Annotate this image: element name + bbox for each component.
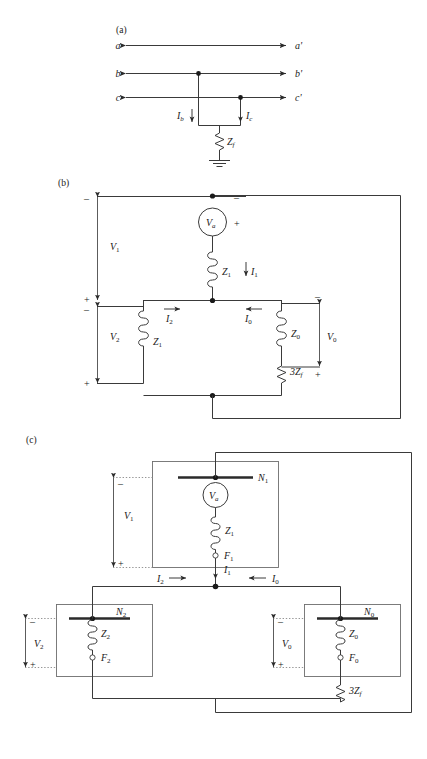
current-label-i0-b: I0 bbox=[244, 313, 252, 326]
impedance-z1-neg-coil bbox=[139, 311, 149, 346]
impedance-z1-neg-label: Z1 bbox=[153, 336, 163, 349]
voltage-label-v1-b: V1 bbox=[110, 241, 120, 254]
impedance-z0-label-c: Z0 bbox=[349, 628, 359, 641]
voltage-label-v0-b: V0 bbox=[327, 331, 337, 344]
v2-minus-c: – bbox=[29, 616, 36, 627]
v1-plus-c: + bbox=[118, 558, 124, 569]
impedance-z0-coil bbox=[277, 311, 287, 346]
current-label-i1-c: I1 bbox=[223, 564, 231, 577]
impedance-z1-label-c: Z1 bbox=[225, 525, 235, 538]
part-c-caption: (c) bbox=[26, 435, 37, 446]
impedance-3zf-label-c: 3Zf bbox=[348, 685, 363, 698]
part-b-caption: (b) bbox=[58, 178, 69, 189]
terminal-label-f2: F2 bbox=[100, 652, 111, 665]
current-label-i0-c: I0 bbox=[271, 573, 279, 586]
source-polarity-minus-b: – bbox=[233, 192, 240, 203]
outer-return-loop-c bbox=[216, 453, 412, 713]
part-b-group: (b) Va – + Z1 I1 Z1 bbox=[58, 178, 401, 419]
v0-plus-c: + bbox=[278, 659, 284, 670]
zf-label: Zf bbox=[227, 136, 236, 149]
terminal-f2 bbox=[90, 655, 95, 660]
ground-icon bbox=[209, 161, 230, 167]
part-c-group: (c) N1 Va Z1 F1 – + V1 I1 bbox=[25, 435, 412, 713]
phase-label-a-right: a' bbox=[295, 40, 303, 51]
v1-minus-b: – bbox=[83, 193, 90, 204]
v2-minus-b: – bbox=[83, 304, 90, 315]
part-a-caption: (a) bbox=[116, 25, 127, 36]
v0-minus-c: – bbox=[277, 616, 284, 627]
network-box-negative bbox=[57, 605, 153, 677]
network-box-zero bbox=[305, 605, 401, 677]
node-top-b bbox=[210, 193, 215, 198]
bus-label-n1: N1 bbox=[257, 472, 269, 485]
current-label-ib: Ib bbox=[176, 110, 184, 123]
zf-resistor-zigzag bbox=[215, 133, 224, 150]
voltage-label-v1-c: V1 bbox=[124, 510, 134, 523]
v0-minus-b: – bbox=[314, 291, 321, 302]
node-b-fault bbox=[196, 71, 201, 76]
node-junction-c bbox=[213, 584, 219, 590]
v2-plus-b: + bbox=[84, 378, 90, 389]
impedance-z0-label: Z0 bbox=[291, 328, 301, 341]
phase-label-c-right: c' bbox=[295, 92, 302, 103]
phase-label-b-right: b' bbox=[295, 68, 303, 79]
voltage-label-v2-c: V2 bbox=[34, 638, 44, 651]
current-label-ic: Ic bbox=[245, 110, 253, 123]
voltage-label-v0-c: V0 bbox=[282, 638, 292, 651]
phase-label-b-left: b bbox=[116, 68, 121, 79]
v2-plus-c: + bbox=[30, 659, 36, 670]
impedance-3zf-label-b: 3Zf bbox=[289, 366, 304, 379]
impedance-z1-series-label: Z1 bbox=[222, 266, 232, 279]
terminal-f0 bbox=[338, 655, 343, 660]
impedance-z1-coil-c bbox=[211, 517, 220, 550]
terminal-label-f1: F1 bbox=[223, 550, 234, 563]
part-a-group: (a) a a' b b' c c' Ib Ic Zf bbox=[116, 25, 304, 167]
outer-return-loop-b bbox=[213, 196, 401, 419]
impedance-z0-coil-c bbox=[336, 620, 345, 650]
current-label-i2-b: I2 bbox=[165, 313, 173, 326]
v1-minus-c: – bbox=[117, 478, 124, 489]
current-label-i2-c: I2 bbox=[156, 573, 164, 586]
terminal-f1 bbox=[213, 553, 218, 558]
current-label-i1-b: I1 bbox=[250, 266, 258, 279]
voltage-label-v2-b: V2 bbox=[110, 331, 120, 344]
phase-label-c-left: c bbox=[116, 92, 121, 103]
phase-label-a-left: a bbox=[116, 40, 121, 51]
source-polarity-plus-b: + bbox=[234, 218, 240, 229]
impedance-3zf-zigzag-b bbox=[277, 366, 286, 383]
impedance-z2-label-c: Z2 bbox=[101, 628, 111, 641]
figure-container: (a) a a' b b' c c' Ib Ic Zf bbox=[0, 0, 427, 759]
v0-plus-b: + bbox=[315, 369, 321, 380]
impedance-z2-coil-c bbox=[88, 620, 97, 650]
node-middle-b bbox=[210, 298, 215, 303]
impedance-z1-series-coil bbox=[208, 252, 218, 287]
node-c-fault bbox=[238, 95, 243, 100]
terminal-label-f0: F0 bbox=[348, 652, 359, 665]
